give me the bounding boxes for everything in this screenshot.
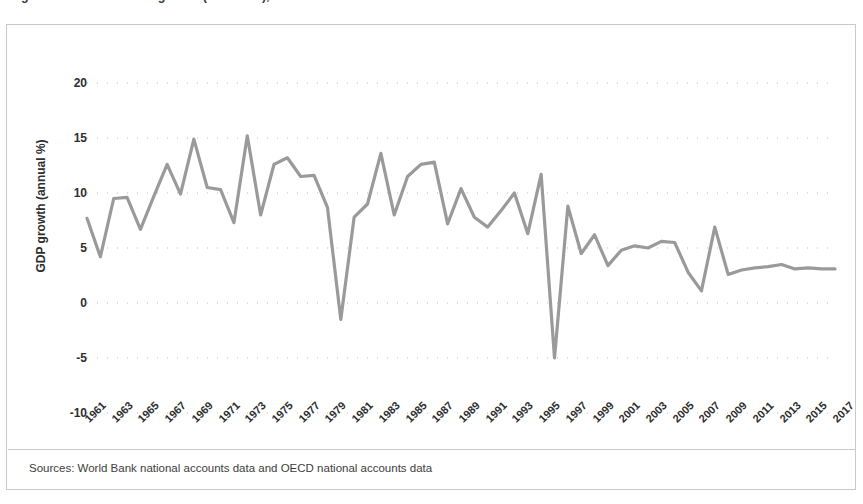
chart-svg bbox=[87, 83, 835, 413]
chart-panel: GDP growth (annual %) 20151050-5-10 1961… bbox=[6, 24, 856, 490]
data-series-line bbox=[87, 136, 835, 358]
y-axis: GDP growth (annual %) 20151050-5-10 bbox=[13, 49, 93, 449]
plot-area bbox=[87, 83, 835, 413]
y-tick-label: 10 bbox=[43, 187, 87, 199]
y-tick-label: 20 bbox=[43, 77, 87, 89]
figure-root: Figure 1. Indonesia GDP growth (annual %… bbox=[0, 0, 863, 504]
footer-divider bbox=[8, 449, 856, 450]
gridlines bbox=[87, 83, 835, 413]
y-tick-label: 5 bbox=[43, 242, 87, 254]
y-tick-label: -5 bbox=[43, 352, 87, 364]
series-line bbox=[87, 136, 835, 358]
y-tick-label: 15 bbox=[43, 132, 87, 144]
figure-title: Figure 1. Indonesia GDP growth (annual %… bbox=[10, 0, 850, 7]
source-note: Sources: World Bank national accounts da… bbox=[29, 462, 432, 474]
y-tick-label: -10 bbox=[43, 407, 87, 419]
y-tick-label: 0 bbox=[43, 297, 87, 309]
